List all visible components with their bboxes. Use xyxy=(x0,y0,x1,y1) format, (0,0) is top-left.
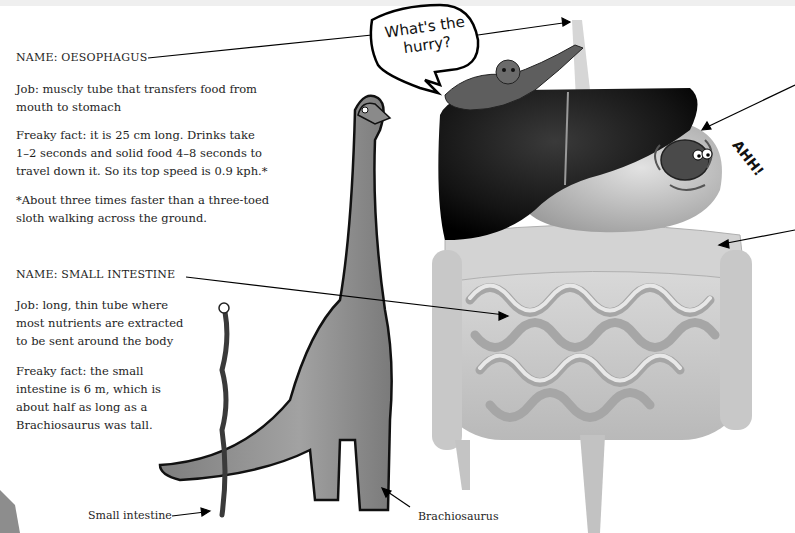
corner-fragment xyxy=(0,490,20,533)
oesophagus-job-line: mouth to stomach xyxy=(16,98,296,116)
small-intestine-fact-line: Freaky fact: the small xyxy=(16,362,196,380)
small-intestine-worm-illustration xyxy=(219,303,229,515)
small-intestine-fact-line: about half as long as a xyxy=(16,398,196,416)
oesophagus-name-heading: NAME: OESOPHAGUS xyxy=(16,49,147,67)
small-intestine-job-line: Job: long, thin tube where xyxy=(16,296,196,314)
oesophagus-job: Job: muscly tube that transfers food fro… xyxy=(16,80,296,116)
intestines-illustration xyxy=(432,225,752,533)
caption-brachiosaurus: Brachiosaurus xyxy=(418,510,499,523)
oesophagus-footnote-line: *About three times faster than a three-t… xyxy=(16,191,306,209)
oesophagus-fact-line: travel down it. So its top speed is 0.9 … xyxy=(16,162,306,180)
oesophagus-fact-line: 1–2 seconds and solid food 4–8 seconds t… xyxy=(16,144,306,162)
oesophagus-fact: Freaky fact: it is 25 cm long. Drinks ta… xyxy=(16,126,306,180)
small-intestine-fact: Freaky fact: the small intestine is 6 m,… xyxy=(16,362,196,434)
caption-small-intestine: Small intestine xyxy=(88,509,172,522)
small-intestine-fact-line: intestine is 6 m, which is xyxy=(16,380,196,398)
oesophagus-footnote: *About three times faster than a three-t… xyxy=(16,191,306,227)
small-intestine-fact-line: Brachiosaurus was tall. xyxy=(16,416,196,434)
small-intestine-job: Job: long, thin tube where most nutrient… xyxy=(16,296,196,350)
oesophagus-fact-line: Freaky fact: it is 25 cm long. Drinks ta… xyxy=(16,126,306,144)
small-intestine-job-line: to be sent around the body xyxy=(16,332,196,350)
small-intestine-name-heading: NAME: SMALL INTESTINE xyxy=(16,266,175,284)
oesophagus-job-line: Job: muscly tube that transfers food fro… xyxy=(16,80,296,98)
small-intestine-job-line: most nutrients are extracted xyxy=(16,314,196,332)
oesophagus-footnote-line: sloth walking across the ground. xyxy=(16,209,306,227)
oesophagus-illustration xyxy=(572,20,590,100)
